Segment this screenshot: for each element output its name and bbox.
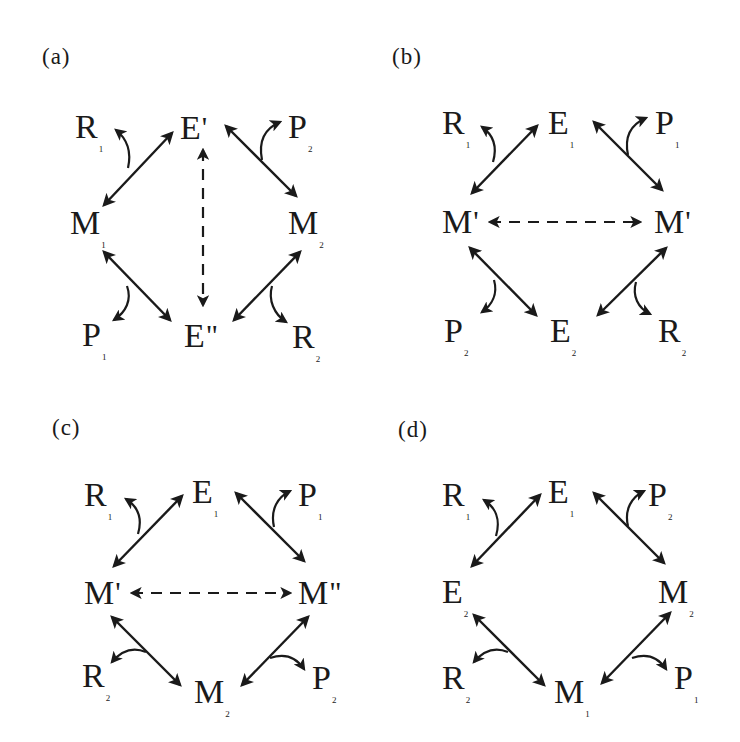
node-c-top: E1: [192, 475, 218, 531]
node-d-bl: R2: [442, 661, 470, 717]
node-d-bot: M1: [554, 675, 590, 731]
panel-b: (b) R1 E1 P1 M' M' P2 E2 R2: [370, 0, 740, 371]
node-c-bot: M2: [194, 675, 230, 731]
node-d-mr: M2: [658, 575, 694, 631]
node-b-ml: M': [442, 204, 481, 239]
node-c-mr: M": [298, 575, 343, 610]
node-b-bot: E2: [550, 314, 576, 370]
node-a-tr: P2: [288, 110, 312, 166]
node-c-tr: P1: [298, 478, 322, 534]
node-a-bl: P1: [82, 318, 106, 374]
node-c-tl: R1: [84, 478, 112, 534]
panel-b-label: (b): [392, 44, 422, 70]
node-b-tl: R1: [442, 106, 470, 162]
node-d-top: E1: [548, 475, 574, 531]
panel-d-label: (d): [398, 417, 428, 443]
node-c-br: P2: [312, 661, 336, 717]
panel-c-label: (c): [52, 415, 81, 441]
node-a-bot: E": [184, 318, 220, 353]
panel-a: (a) R1 E' P2 M1 M2 P1 E" R2: [0, 0, 370, 371]
node-c-ml: M': [84, 575, 123, 610]
node-b-top: E1: [548, 106, 574, 162]
node-a-ml: M1: [70, 206, 106, 262]
panel-c: (c) R1 E1 P1 M' M" R2 M2 P2: [0, 371, 370, 742]
node-b-mr: M': [654, 204, 693, 239]
node-a-mr: M2: [288, 206, 324, 262]
node-d-tl: R1: [442, 478, 470, 534]
node-d-tr: P2: [648, 478, 672, 534]
node-b-bl: P2: [444, 314, 468, 370]
panel-d: (d) R1 E1 P2 E2 M2 R2 M1 P1: [370, 371, 740, 742]
node-c-bl: R2: [82, 659, 110, 715]
panel-a-label: (a): [42, 44, 71, 70]
node-b-br: R2: [658, 314, 686, 370]
node-d-br: P1: [674, 661, 698, 717]
node-a-br: R2: [292, 320, 320, 376]
node-b-tr: P1: [655, 106, 679, 162]
node-d-ml: E2: [442, 575, 468, 631]
node-a-tl: R1: [75, 110, 103, 166]
node-a-top: E': [180, 110, 209, 145]
